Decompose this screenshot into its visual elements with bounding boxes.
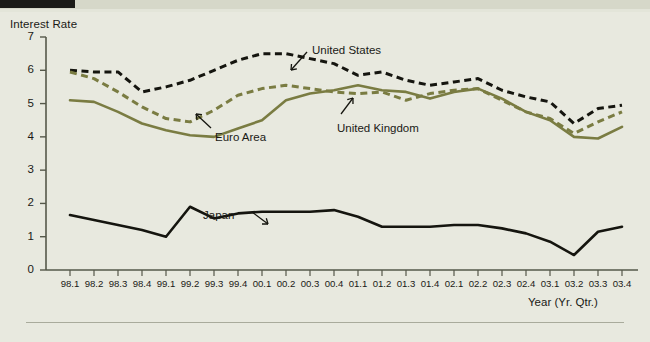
y-tick-label: 0 [18,263,34,275]
x-tick-label: 99.2 [177,278,203,289]
annotation-united-states: United States [312,44,381,56]
x-tick-label: 00.4 [321,278,347,289]
leader-line [291,52,307,70]
x-tick-label: 03.3 [585,278,611,289]
x-tick-label: 01.2 [369,278,395,289]
x-tick-label: 00.1 [249,278,275,289]
leader-line [252,212,268,224]
y-tick-label: 4 [18,130,34,142]
y-tick-label: 1 [18,230,34,242]
series-layer [70,54,622,255]
y-tick-label: 6 [18,63,34,75]
x-tick-label: 03.1 [537,278,563,289]
y-tick-label: 3 [18,163,34,175]
x-tick-label: 00.2 [273,278,299,289]
x-tick-label: 01.4 [417,278,443,289]
bottom-rule [26,322,624,323]
x-tick-label: 03.2 [561,278,587,289]
annotation-euro-area: Euro Area [215,131,266,143]
x-tick-label: 03.4 [609,278,635,289]
x-tick-label: 02.1 [441,278,467,289]
x-tick-label: 00.3 [297,278,323,289]
x-tick-label: 99.4 [225,278,251,289]
y-tick-label: 2 [18,196,34,208]
x-tick-label: 01.1 [345,278,371,289]
x-tick-label: 99.3 [201,278,227,289]
x-tick-label: 99.1 [153,278,179,289]
annotation-united-kingdom: United Kingdom [337,122,419,134]
x-tick-label: 02.3 [489,278,515,289]
x-tick-label: 98.4 [129,278,155,289]
y-tick-label: 5 [18,97,34,109]
leader-line [341,98,353,114]
x-tick-label: 02.4 [513,278,539,289]
x-tick-label: 02.2 [465,278,491,289]
x-tick-label: 98.2 [81,278,107,289]
chart-figure: Interest Rate Year (Yr. Qtr.) 01234567 9… [0,0,650,342]
y-tick-label: 7 [18,30,34,42]
series-line-japan [70,207,622,255]
x-tick-label: 98.1 [57,278,83,289]
x-tick-label: 01.3 [393,278,419,289]
leader-line [196,114,211,128]
annotation-japan: Japan [203,209,234,221]
x-tick-label: 98.3 [105,278,131,289]
